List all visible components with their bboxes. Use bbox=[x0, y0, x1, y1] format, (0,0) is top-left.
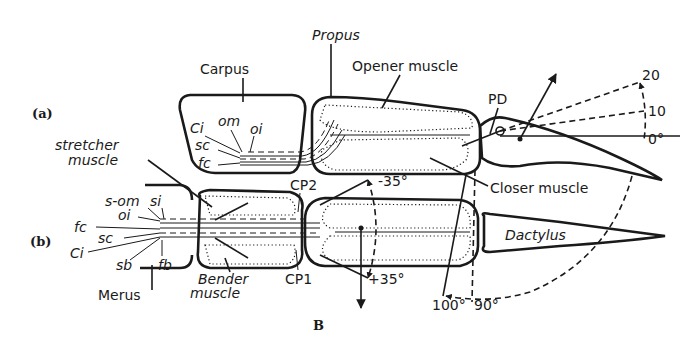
pd-label: PD bbox=[488, 91, 507, 107]
merus-label: Merus bbox=[98, 287, 141, 303]
caption-letter: B bbox=[313, 318, 324, 333]
angle-20-label: 20 bbox=[642, 67, 660, 83]
propus-b-muscle-upper bbox=[323, 204, 471, 228]
angle-minus-35-label: -35° bbox=[378, 173, 408, 189]
ci-b-label: Ci bbox=[70, 245, 84, 261]
propus-b-muscle-lower bbox=[323, 236, 471, 260]
fc-a-label: fc bbox=[198, 155, 211, 171]
closer-muscle-label: Closer muscle bbox=[490, 180, 588, 196]
sb-label: sb bbox=[116, 257, 132, 273]
angle-10-label: 10 bbox=[648, 103, 666, 119]
opener-muscle-label: Opener muscle bbox=[352, 58, 458, 74]
panel-b-label: (b) bbox=[30, 234, 51, 249]
panel-a: (a) Carpus Propus Ci om oi sc fc bbox=[32, 27, 680, 196]
angle-90-label: 90° bbox=[474, 297, 499, 313]
fc-b-label: fc bbox=[74, 219, 87, 235]
si-label: si bbox=[150, 193, 161, 209]
carpus-b-outline bbox=[198, 190, 303, 268]
ci-a-label: Ci bbox=[190, 120, 204, 136]
angle-100-label: 100° bbox=[432, 297, 466, 313]
stretcher-muscle bbox=[205, 196, 295, 215]
angle-0-label: 0° bbox=[648, 131, 664, 147]
om-label: om bbox=[218, 113, 240, 129]
sc-b-label: sc bbox=[98, 230, 113, 246]
bender-muscle-label-2: muscle bbox=[190, 285, 240, 301]
oi-b-label: oi bbox=[118, 207, 131, 223]
oi-a-label: oi bbox=[250, 121, 263, 137]
carpus-label: Carpus bbox=[200, 61, 249, 77]
fb-label: fb bbox=[158, 257, 172, 273]
nerve-bundle-b bbox=[160, 203, 320, 258]
cp1-label: CP1 bbox=[285, 271, 312, 287]
dactylus-a-outline bbox=[480, 117, 662, 180]
stretcher-muscle-label-1: stretcher bbox=[55, 137, 120, 153]
cp2-label: CP2 bbox=[290, 177, 317, 193]
stretcher-muscle-label-2: muscle bbox=[68, 152, 118, 168]
panel-a-label: (a) bbox=[32, 106, 53, 121]
propus-label: Propus bbox=[312, 27, 360, 43]
angle-plus-35-label: +35° bbox=[368, 271, 405, 287]
sc-a-label: sc bbox=[195, 137, 210, 153]
dactylus-label: Dactylus bbox=[505, 227, 566, 243]
crustacean-limb-diagram: (a) Carpus Propus Ci om oi sc fc bbox=[0, 0, 691, 354]
bender-muscle bbox=[205, 245, 295, 264]
